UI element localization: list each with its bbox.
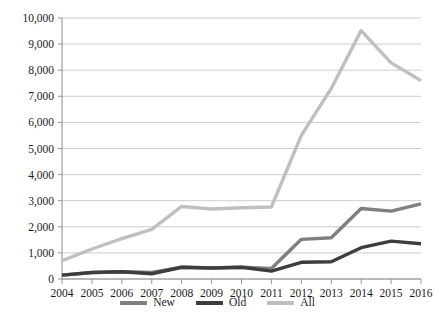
legend-label-all: All [300, 297, 315, 309]
line-chart: 01,0002,0003,0004,0005,0006,0007,0008,00… [0, 0, 435, 330]
ytick-label: 9,000 [28, 38, 54, 51]
legend-swatch-new [120, 301, 147, 305]
legend-label-new: New [153, 297, 175, 309]
ytick-label: 4,000 [28, 169, 54, 182]
legend-item-old: Old [196, 297, 246, 309]
plot-area: 01,0002,0003,0004,0005,0006,0007,0008,00… [0, 0, 435, 330]
ytick-label: 7,000 [28, 90, 54, 103]
ytick-label: 8,000 [28, 64, 54, 77]
ytick-label: 6,000 [28, 116, 54, 129]
ytick-label: 3,000 [28, 195, 54, 208]
chart-legend: New Old All [0, 297, 435, 309]
ytick-label: 1,000 [28, 247, 54, 260]
ytick-label: 10,000 [22, 12, 54, 25]
legend-swatch-all [267, 301, 294, 305]
series-line-all [62, 31, 421, 261]
legend-swatch-old [196, 301, 223, 305]
ytick-label: 0 [48, 273, 54, 285]
legend-item-new: New [120, 297, 175, 309]
ytick-label: 5,000 [28, 143, 54, 156]
legend-item-all: All [267, 297, 315, 309]
series-line-old [62, 241, 421, 275]
legend-label-old: Old [229, 297, 246, 309]
ytick-label: 2,000 [28, 221, 54, 234]
